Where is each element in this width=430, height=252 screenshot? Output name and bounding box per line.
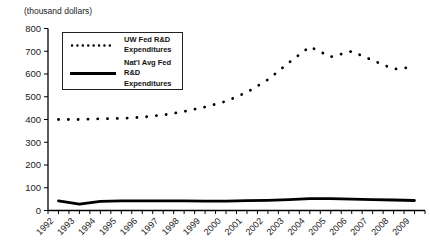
series-line-natl xyxy=(59,199,415,204)
y-tick-label: 300 xyxy=(25,137,41,148)
legend-item-natl: Nat'l Avg Fed R&D Expenditures xyxy=(63,58,182,90)
x-tick-label: 2000 xyxy=(202,216,223,237)
x-tick-label: 1994 xyxy=(76,216,97,237)
x-tick-label: 1995 xyxy=(97,216,118,237)
y-tick-label: 700 xyxy=(25,46,41,57)
x-tick-label: 1998 xyxy=(160,216,181,237)
x-tick-label: 2004 xyxy=(286,216,307,237)
x-tick-label: 1997 xyxy=(139,216,160,237)
y-tick-label: 600 xyxy=(25,68,41,79)
y-tick-label: 200 xyxy=(25,159,41,170)
x-tick-label: 1992 xyxy=(34,216,55,237)
legend: UW Fed R&D Expenditures Nat'l Avg Fed R&… xyxy=(62,32,183,90)
legend-label-uw: UW Fed R&D Expenditures xyxy=(124,35,182,56)
dotted-line-icon xyxy=(70,43,116,48)
x-tick-label: 1999 xyxy=(181,216,202,237)
x-tick-label: 2001 xyxy=(223,216,244,237)
x-tick-label: 2002 xyxy=(244,216,265,237)
x-tick-label: 2006 xyxy=(327,216,348,237)
x-tick-label: 2007 xyxy=(348,216,369,237)
y-tick-label: 400 xyxy=(25,114,41,125)
x-tick-label: 1993 xyxy=(55,216,76,237)
legend-item-uw: UW Fed R&D Expenditures xyxy=(63,33,182,58)
y-tick-label: 100 xyxy=(25,182,41,193)
x-tick-label: 1996 xyxy=(118,216,139,237)
x-tick-label: 2005 xyxy=(306,216,327,237)
x-tick-label: 2008 xyxy=(369,216,390,237)
legend-label-natl: Nat'l Avg Fed R&D Expenditures xyxy=(124,58,182,90)
y-tick-label: 800 xyxy=(25,23,41,34)
x-tick-label: 2009 xyxy=(390,216,411,237)
chart-area: (thousand dollars) 010020030040050060070… xyxy=(0,0,430,252)
solid-line-icon xyxy=(70,72,116,75)
x-tick-label: 2003 xyxy=(265,216,286,237)
y-tick-label: 500 xyxy=(25,91,41,102)
y-tick-label: 0 xyxy=(36,205,41,216)
